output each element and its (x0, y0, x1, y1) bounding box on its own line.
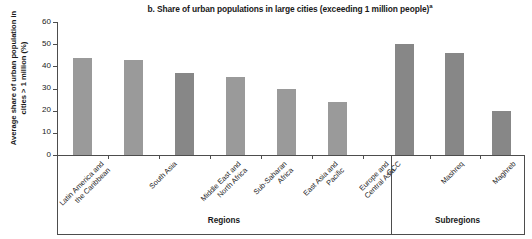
x-tick-label-maghreb: Maghreb (470, 160, 519, 209)
x-axis-separator (210, 155, 211, 159)
plot-area: 60 50 40 30 20 10 0 (57, 22, 525, 155)
y-tick-30: 30 (53, 89, 57, 90)
y-tick-label-50: 50 (42, 39, 51, 49)
bar-maghreb (492, 111, 511, 155)
group-divider-right (524, 155, 525, 208)
x-tick-label-south-asia: South Asia (131, 160, 180, 209)
bar-mashreq (445, 53, 464, 155)
x-axis-separator (430, 155, 431, 159)
y-tick-label-40: 40 (42, 61, 51, 71)
y-tick-40: 40 (53, 66, 57, 67)
bar-east-asia-and-pacific (277, 89, 296, 156)
x-axis-separator (108, 155, 109, 159)
y-tick-label-0: 0 (47, 150, 51, 160)
x-axis-line (57, 155, 525, 156)
y-tick-label-60: 60 (42, 17, 51, 27)
bar-sub-saharan-africa (226, 77, 245, 155)
y-tick-50: 50 (53, 44, 57, 45)
x-tick-label-mashreq: Mashreq (418, 160, 467, 209)
chart-title-text: b. Share of urban populations in large c… (148, 4, 430, 14)
y-tick-60: 60 (53, 22, 57, 23)
y-tick-label-30: 30 (42, 83, 51, 93)
bar-middle-east-and-north-africa (175, 73, 194, 155)
bar-europe-and-central-asia (328, 102, 347, 155)
x-axis-separator (480, 155, 481, 159)
x-axis-separator (261, 155, 262, 159)
group-divider-left (57, 155, 58, 208)
bar-south-asia (124, 60, 143, 155)
chart-figure: b. Share of urban populations in large c… (0, 0, 532, 239)
bar-gcc (395, 44, 414, 155)
x-axis-separator (312, 155, 313, 159)
y-tick-label-10: 10 (42, 127, 51, 137)
x-axis-separator (363, 155, 364, 159)
y-axis-title: Average share of urban population in cit… (9, 3, 33, 153)
group-divider-middle (391, 155, 392, 208)
chart-title-footnote-marker: a (429, 3, 432, 9)
x-axis-separator (159, 155, 160, 159)
y-axis-line (57, 22, 58, 156)
chart-title: b. Share of urban populations in large c… (100, 3, 480, 14)
x-axis-group-label-regions: Regions (57, 216, 391, 225)
bar-latin-america-and-the-caribbean (73, 58, 92, 156)
y-tick-10: 10 (53, 133, 57, 134)
y-tick-label-20: 20 (42, 105, 51, 115)
y-tick-20: 20 (53, 111, 57, 112)
x-axis-group-label-subregions: Subregions (391, 216, 524, 225)
